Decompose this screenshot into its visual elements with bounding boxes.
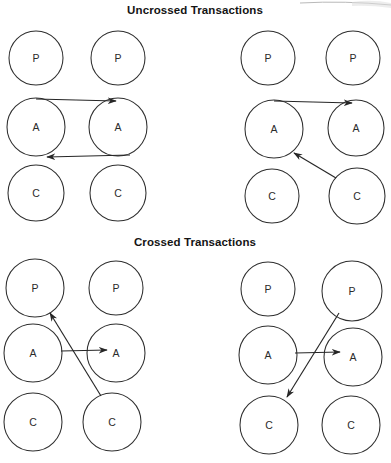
node-label: A — [29, 347, 36, 359]
node-cl-c-right[interactable]: C — [83, 393, 141, 451]
node-cl-a-left[interactable]: A — [4, 324, 62, 382]
node-ul-p-right[interactable]: P — [91, 31, 145, 85]
node-ur-p-right[interactable]: P — [326, 31, 380, 85]
node-ul-c-right[interactable]: C — [90, 165, 146, 221]
node-cr-c-right[interactable]: C — [322, 396, 380, 454]
node-label: P — [348, 285, 355, 297]
node-cr-p-left[interactable]: P — [241, 262, 295, 316]
node-label: A — [114, 121, 121, 133]
node-cl-p-left[interactable]: P — [6, 259, 64, 317]
node-label: A — [264, 349, 271, 361]
node-ul-a-right[interactable]: A — [89, 98, 147, 156]
node-cr-p-right[interactable]: P — [322, 261, 382, 321]
node-label: A — [270, 123, 277, 135]
node-cl-p-right[interactable]: P — [89, 261, 143, 315]
node-ur-p-left[interactable]: P — [241, 31, 295, 85]
node-label: P — [112, 282, 119, 294]
node-ur-c-left[interactable]: C — [245, 169, 299, 223]
node-cr-a-right[interactable]: A — [324, 328, 382, 386]
node-ul-a-left[interactable]: A — [7, 98, 65, 156]
node-label: C — [268, 190, 276, 202]
node-ur-a-left[interactable]: A — [245, 100, 303, 158]
node-label: P — [264, 283, 271, 295]
node-label: P — [349, 52, 356, 64]
section-title-uncrossed: Uncrossed Transactions — [127, 4, 263, 16]
node-cl-c-left[interactable]: C — [4, 393, 62, 451]
node-cr-a-left[interactable]: A — [239, 326, 297, 384]
node-ur-c-right[interactable]: C — [329, 168, 385, 224]
transaction-diagram: Uncrossed Transactions P P A A C — [0, 0, 391, 463]
node-label: A — [352, 122, 359, 134]
node-label: C — [114, 187, 122, 199]
node-cl-a-right[interactable]: A — [87, 324, 145, 382]
node-label: P — [32, 52, 39, 64]
section-title-crossed: Crossed Transactions — [134, 236, 256, 248]
node-label: C — [353, 190, 361, 202]
node-label: C — [265, 419, 273, 431]
node-label: A — [112, 347, 119, 359]
node-label: P — [114, 52, 121, 64]
node-label: A — [349, 351, 356, 363]
node-label: C — [32, 187, 40, 199]
node-label: P — [31, 282, 38, 294]
node-label: C — [108, 416, 116, 428]
node-label: C — [347, 419, 355, 431]
node-ur-a-right[interactable]: A — [328, 100, 384, 156]
node-label: A — [32, 121, 39, 133]
node-label: P — [264, 52, 271, 64]
node-ul-p-left[interactable]: P — [9, 31, 63, 85]
node-cr-c-left[interactable]: C — [240, 396, 298, 454]
node-ul-c-left[interactable]: C — [8, 165, 64, 221]
node-label: C — [29, 416, 37, 428]
